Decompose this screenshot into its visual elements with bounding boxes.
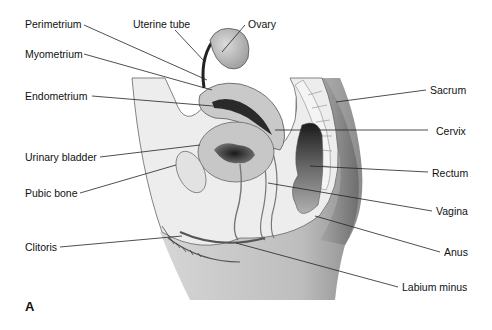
- ovary-and-tube: [203, 28, 249, 88]
- label-clitoris: Clitoris: [25, 241, 57, 253]
- label-myometrium: Myometrium: [25, 48, 83, 60]
- label-cervix: Cervix: [436, 125, 466, 137]
- label-rectum: Rectum: [432, 167, 468, 179]
- label-ovary: Ovary: [248, 18, 276, 30]
- label-anus: Anus: [444, 246, 468, 258]
- panel-letter: A: [25, 299, 34, 314]
- label-labium-minus: Labium minus: [402, 281, 467, 293]
- label-sacrum: Sacrum: [430, 84, 466, 96]
- label-perimetrium: Perimetrium: [25, 18, 82, 30]
- label-urinary-bladder: Urinary bladder: [25, 151, 97, 163]
- label-vagina: Vagina: [436, 205, 468, 217]
- label-pubic-bone: Pubic bone: [25, 187, 78, 199]
- label-endometrium: Endometrium: [25, 90, 87, 102]
- label-uterine-tube: Uterine tube: [133, 18, 190, 30]
